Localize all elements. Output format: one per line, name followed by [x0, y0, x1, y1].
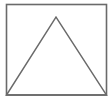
diagram-canvas — [0, 0, 108, 104]
diagram-svg — [0, 0, 108, 104]
inscribed-triangle — [7, 17, 107, 95]
